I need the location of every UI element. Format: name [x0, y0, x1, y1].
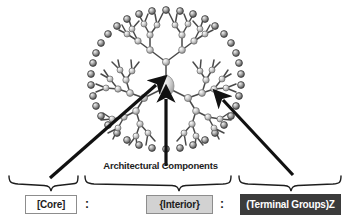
- terminal-groups-label-box[interactable]: (Terminal Groups)Z: [240, 194, 341, 215]
- dendrimer-diagram-svg: [0, 0, 347, 222]
- terminal-arrow: [223, 100, 293, 175]
- terminal-brace: [239, 176, 341, 191]
- formula-separator-2: :: [220, 195, 224, 214]
- core-brace: [9, 176, 78, 191]
- core-label-box[interactable]: [Core]: [25, 195, 77, 214]
- interior-label-box[interactable]: {Interior}: [146, 195, 213, 214]
- core-sphere: [158, 76, 174, 97]
- architectural-components-caption: Architectural Components: [88, 160, 233, 171]
- formula-separator-1: :: [85, 195, 89, 214]
- figure-canvas: Architectural Components [Core] : {Inter…: [0, 0, 347, 222]
- group-braces: [9, 176, 341, 191]
- interior-brace: [85, 176, 231, 191]
